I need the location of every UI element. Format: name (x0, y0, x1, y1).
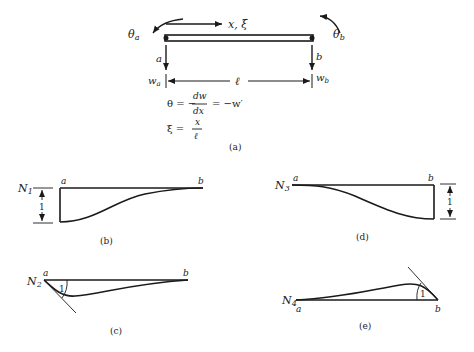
x-xi-label: x, ξ (228, 18, 248, 31)
n3-label: N3 (274, 179, 290, 193)
caption-d: (d) (356, 232, 369, 242)
n2-node-a: a (43, 268, 48, 278)
panel-b-shape-n1: 1 N1 a b (b) (17, 176, 204, 246)
eq2-numerator: x (195, 117, 200, 127)
w-a-label: wa (148, 75, 161, 88)
panel-d-shape-n3: 1 N3 a b (d) (274, 173, 456, 242)
node-b-label: b (316, 51, 322, 62)
node-a-label: a (156, 53, 162, 64)
eq1-denominator: dx (193, 106, 204, 116)
n4-slope: 1 (420, 289, 426, 299)
eq2-lhs: ξ = (167, 123, 184, 134)
w-b-label: wb (316, 72, 330, 85)
panel-c-shape-n2: 1 N2 a b (c) (26, 268, 189, 336)
n1-curve (60, 188, 203, 222)
beam-bar (165, 35, 313, 41)
node-b-dot (310, 36, 315, 41)
caption-b: (b) (100, 236, 113, 246)
n1-label: N1 (17, 182, 33, 196)
n1-node-b: b (198, 176, 204, 186)
eq1-rhs: = −w′ (212, 98, 243, 109)
n1-node-a: a (61, 176, 66, 186)
n4-label: N4 (281, 294, 297, 308)
eq1-numerator: dw (193, 91, 207, 101)
n2-slope: 1 (59, 284, 65, 294)
theta-b-label: θb (333, 28, 345, 42)
n4-node-a: a (296, 304, 301, 314)
panel-e-shape-n4: 1 N4 a b (e) (281, 267, 441, 331)
n2-node-b: b (183, 268, 189, 278)
caption-e: (e) (359, 321, 371, 331)
node-a-dot (164, 36, 169, 41)
n4-node-b: b (435, 304, 441, 314)
theta-a-label: θa (128, 28, 140, 42)
panel-a-beam-element: x, ξ θa θb a wa b wb ℓ θ = − dw dx = −w′… (128, 16, 345, 152)
n2-curve (44, 280, 188, 296)
length-label: ℓ (235, 75, 240, 88)
theta-a-rotation-arrow (153, 19, 183, 33)
n3-node-b: b (428, 173, 434, 183)
n1-magnitude: 1 (39, 202, 45, 212)
eq1-lhs: θ = − (167, 98, 196, 109)
n3-curve (292, 185, 434, 219)
n3-magnitude: 1 (447, 197, 453, 207)
caption-a: (a) (229, 142, 241, 152)
n3-node-a: a (293, 173, 298, 183)
eq2-denominator: ℓ (194, 131, 198, 141)
n2-label: N2 (26, 275, 42, 289)
caption-c: (c) (110, 326, 122, 336)
beam-shape-functions-diagram: x, ξ θa θb a wa b wb ℓ θ = − dw dx = −w′… (0, 0, 474, 352)
